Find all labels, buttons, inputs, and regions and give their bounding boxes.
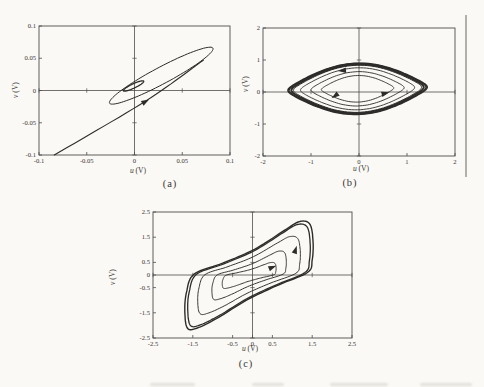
cutoff-text-smudge	[330, 383, 388, 386]
x-tick-label: 2	[453, 159, 456, 166]
y-axis-label: v (V)	[12, 82, 20, 98]
y-tick-label: 0.1	[28, 23, 36, 30]
x-tick-label: -2	[260, 159, 266, 166]
y-tick-label: 1	[257, 57, 260, 64]
y-tick-label: -1.5	[140, 310, 150, 317]
y-tick-label: 0	[147, 272, 150, 279]
y-tick-label: 0.5	[142, 259, 150, 266]
y-tick-label: 2	[257, 25, 260, 32]
x-tick-label: -1	[308, 159, 314, 166]
x-tick-label: 2.5	[348, 341, 356, 348]
x-tick-label: 0.05	[176, 158, 188, 165]
x-tick-label: -0.05	[80, 158, 94, 165]
y-tick-label: -1	[255, 121, 261, 128]
y-tick-label: -2.5	[140, 335, 150, 342]
y-tick-label: -0.05	[22, 119, 36, 126]
x-tick-label: 1	[405, 159, 408, 166]
y-tick-label: 1.5	[142, 234, 150, 241]
y-axis-label: v (V)	[109, 269, 117, 285]
x-axis-label: u (V)	[353, 165, 369, 173]
y-tick-label: -0.1	[26, 152, 36, 159]
phase-portraits-canvas	[0, 0, 484, 387]
x-tick-label: -2.5	[148, 341, 158, 348]
x-axis-label: u (V)	[242, 345, 258, 353]
x-tick-label: -0.5	[227, 341, 237, 348]
y-tick-label: -2	[255, 153, 261, 160]
x-tick-label: -0.1	[34, 158, 44, 165]
x-tick-label: 0.5	[268, 341, 276, 348]
y-tick-label: 2.5	[142, 209, 150, 216]
x-tick-label: 0	[133, 158, 136, 165]
x-axis-label: u (V)	[130, 167, 146, 175]
subfigure-caption: (a)	[163, 179, 178, 190]
x-tick-label: -1.5	[188, 341, 198, 348]
y-axis-label: v (V)	[242, 76, 250, 92]
x-tick-label: 1.5	[308, 341, 316, 348]
y-tick-label: 0	[33, 87, 36, 94]
subfigure-caption: (c)	[239, 359, 254, 370]
cutoff-text-smudge	[150, 383, 195, 386]
y-tick-label: 0	[257, 89, 260, 96]
cutoff-text-smudge	[252, 383, 284, 386]
figure-page: -0.1-0.0500.050.10.10.050-0.05-0.1u (V)v…	[0, 0, 484, 387]
subfigure-caption: (b)	[342, 178, 357, 189]
y-tick-label: 0.05	[24, 55, 36, 62]
x-tick-label: 0.1	[226, 158, 234, 165]
y-tick-label: -0.5	[140, 284, 150, 291]
cutoff-text-smudge	[420, 383, 472, 386]
